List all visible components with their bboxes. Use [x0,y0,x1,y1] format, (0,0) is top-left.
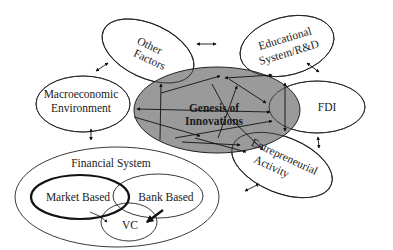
macroeconomic-label-line2: Environment [51,102,112,114]
center-label-line2: Innovations [185,115,244,127]
financial-system-label: Financial System [71,157,151,170]
fdi-entrepreneurial-connector [318,137,319,148]
macroeconomic-label-line1: Macroeconomic [44,88,119,100]
vc-label: VC [122,219,138,231]
innovation-genesis-diagram: Genesis of Innovations Other Factors Edu… [0,0,393,250]
financial-entrepreneurial-connector [245,184,259,191]
center-label-line1: Genesis of [189,102,239,114]
other-factors-macro-connector [96,63,108,71]
fdi-label: FDI [318,101,337,113]
market-based-label: Market Based [46,191,110,203]
bank-based-label: Bank Based [138,191,194,203]
